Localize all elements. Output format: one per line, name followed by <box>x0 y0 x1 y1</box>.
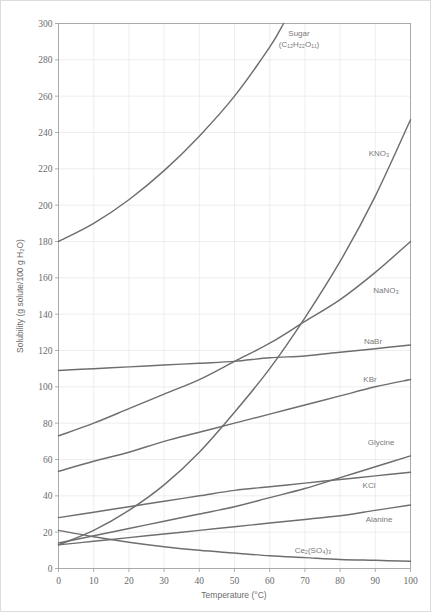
curve-label-formula: (C₁₂H₂₂O₁₁) <box>279 40 320 49</box>
tickmarks-group <box>55 24 411 573</box>
curve-label-nabr: NaBr <box>364 337 383 346</box>
y-tick-labels-group: 0204060801001201401601802002202402602803… <box>38 19 53 574</box>
gridlines-group <box>59 24 411 569</box>
curve-label-nano: NaNO₃ <box>373 286 398 295</box>
y-tick-label: 300 <box>38 19 53 29</box>
solubility-chart-figure: 0204060801001201401601802002202402602803… <box>0 0 431 612</box>
y-tick-label: 100 <box>38 382 53 392</box>
y-tick-label: 60 <box>43 455 53 465</box>
x-tick-label: 30 <box>159 576 169 586</box>
x-tick-label: 20 <box>124 576 134 586</box>
y-tick-label: 80 <box>43 419 53 429</box>
curve-label-glycine: Glycine <box>368 438 395 447</box>
curve-label-ceso: Ce₂(SO₄)₃ <box>295 546 332 555</box>
y-tick-label: 140 <box>38 310 53 320</box>
y-tick-label: 240 <box>38 128 53 138</box>
y-tick-label: 220 <box>38 164 53 174</box>
x-axis-title: Temperature (°C) <box>201 590 266 600</box>
y-tick-label: 200 <box>38 201 53 211</box>
curve-label-alanine: Alanine <box>366 515 393 524</box>
x-tick-labels-group: 0102030405060708090100 <box>56 576 418 586</box>
x-tick-label: 100 <box>403 576 418 586</box>
y-tick-label: 120 <box>38 346 53 356</box>
curve-label-kno: KNO₃ <box>369 149 390 158</box>
y-tick-label: 180 <box>38 237 53 247</box>
x-tick-label: 40 <box>195 576 205 586</box>
y-axis-title: Solubility (g solute/100 g H₂O) <box>15 239 25 353</box>
x-tick-label: 10 <box>89 576 99 586</box>
y-tick-label: 20 <box>43 528 53 538</box>
y-tick-label: 280 <box>38 55 53 65</box>
curve-label-sugar: Sugar <box>288 29 310 38</box>
curve-labels-group: Sugar(C₁₂H₂₂O₁₁)KNO₃NaNO₃NaBrKBrGlycineK… <box>279 29 399 555</box>
curve-label-kcl: KCl <box>363 481 376 490</box>
x-tick-label: 60 <box>265 576 275 586</box>
x-tick-label: 0 <box>56 576 61 586</box>
x-tick-label: 50 <box>230 576 240 586</box>
curve-label-kbr: KBr <box>363 375 377 384</box>
y-tick-label: 40 <box>43 491 53 501</box>
x-tick-label: 70 <box>300 576 310 586</box>
chart-svg: 0204060801001201401601802002202402602803… <box>1 1 431 612</box>
y-tick-label: 160 <box>38 273 53 283</box>
x-tick-label: 90 <box>371 576 381 586</box>
x-tick-label: 80 <box>335 576 345 586</box>
y-tick-label: 0 <box>48 564 53 574</box>
y-tick-label: 260 <box>38 92 53 102</box>
